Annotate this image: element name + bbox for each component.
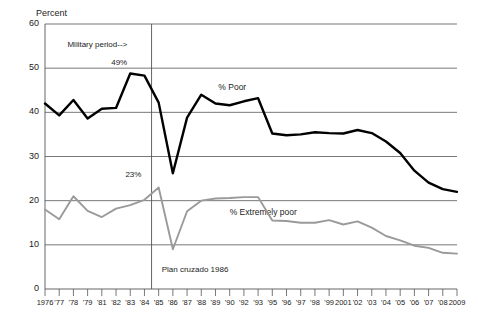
poverty-trend-chart: Percent 0102030405060 1976'77'78'79'81'8… — [0, 0, 478, 316]
series-line-extremely-poor — [45, 187, 457, 253]
plot-area — [0, 0, 478, 316]
series-line-poor — [45, 73, 457, 191]
